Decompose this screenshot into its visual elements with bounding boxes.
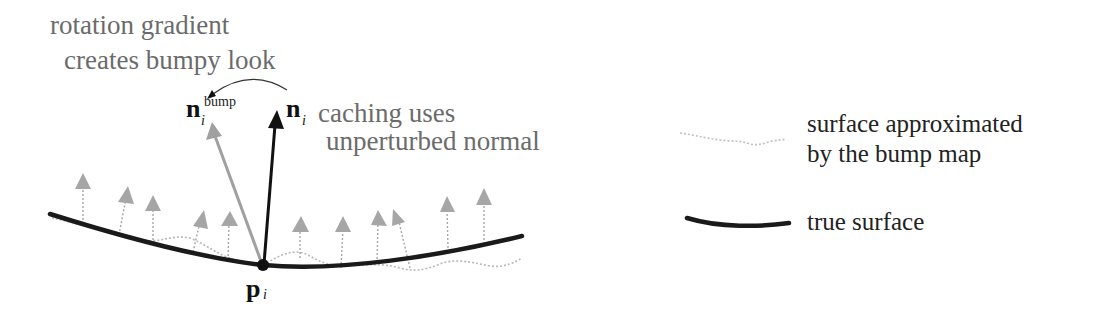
- dotted-line-swatch-icon: [680, 133, 786, 145]
- caching-label-line1: caching uses: [318, 98, 455, 128]
- rotation-gradient-label-line2: creates bumpy look: [64, 45, 276, 75]
- arrowhead-icon: [193, 210, 208, 229]
- arrowhead-icon: [221, 211, 238, 226]
- arrowhead-icon: [292, 216, 309, 232]
- legend-bump-surface-line1: surface approximated: [807, 110, 1023, 137]
- arrowhead-icon: [335, 216, 351, 232]
- arrowhead-icon: [392, 209, 405, 226]
- n-bump-base: n: [186, 94, 201, 123]
- n-bump-symbol: n i bump: [186, 94, 236, 128]
- arrowhead-icon: [371, 210, 387, 226]
- legend-item-bump-surface: surface approximated by the bump map: [680, 110, 1023, 167]
- caching-label-line2: unperturbed normal: [326, 126, 540, 156]
- n-bump-arrow: [206, 122, 262, 264]
- bump-map-normal-diagram: rotation gradient creates bumpy look n i…: [0, 0, 1096, 314]
- bump-normal-heads: [75, 173, 492, 232]
- n-bump-subscript: i: [201, 113, 205, 128]
- n-bump-superscript: bump: [204, 94, 236, 109]
- point-p-marker: [257, 259, 269, 271]
- p-symbol: p i: [246, 274, 267, 303]
- n-symbol: n i: [286, 94, 306, 128]
- arrowhead-icon: [440, 196, 455, 212]
- rotation-gradient-label-line1: rotation gradient: [50, 10, 230, 40]
- legend: surface approximated by the bump map tru…: [680, 110, 1023, 235]
- thick-line-swatch-icon: [687, 218, 789, 226]
- legend-true-surface-label: true surface: [807, 208, 924, 235]
- p-base: p: [246, 274, 260, 303]
- bump-surface-curve: [52, 218, 522, 270]
- p-subscript: i: [263, 287, 267, 302]
- arrowhead-icon: [145, 195, 161, 211]
- n-arrow: [264, 110, 284, 264]
- arrowhead-icon: [476, 188, 492, 205]
- legend-item-true-surface: true surface: [687, 208, 924, 235]
- n-base: n: [286, 94, 301, 123]
- arrowhead-icon: [75, 173, 91, 189]
- legend-bump-surface-line2: by the bump map: [807, 140, 981, 167]
- n-subscript: i: [302, 113, 306, 128]
- arrowhead-icon: [118, 186, 134, 204]
